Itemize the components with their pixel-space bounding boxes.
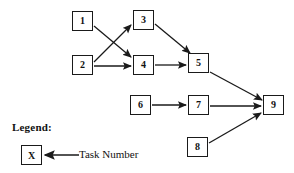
task-node-6[interactable]: 6: [130, 95, 151, 115]
edge-8-to-9: [209, 113, 261, 143]
legend-sample-box: X: [21, 145, 42, 165]
task-node-2[interactable]: 2: [72, 55, 93, 75]
task-node-9[interactable]: 9: [263, 95, 284, 115]
task-node-5[interactable]: 5: [188, 53, 209, 73]
task-node-7[interactable]: 7: [188, 95, 209, 115]
task-node-label: 8: [195, 142, 200, 152]
legend-sample-label: X: [28, 150, 35, 161]
legend-description: Task Number: [79, 148, 138, 160]
diagram-canvas: 1 2 3 4 5 6 7 8 9 Legend: X Task Number: [0, 0, 294, 173]
task-node-4[interactable]: 4: [133, 55, 154, 75]
task-node-label: 5: [196, 58, 201, 68]
task-node-label: 1: [80, 16, 85, 26]
task-node-1[interactable]: 1: [72, 11, 93, 31]
task-node-label: 2: [80, 60, 85, 70]
task-node-3[interactable]: 3: [133, 10, 154, 30]
task-node-label: 3: [141, 15, 146, 25]
task-node-label: 7: [196, 100, 201, 110]
edge-group: [94, 24, 262, 143]
task-node-label: 6: [138, 100, 143, 110]
task-node-label: 4: [141, 60, 146, 70]
edge-3-to-5: [155, 24, 190, 53]
task-node-label: 9: [271, 100, 276, 110]
legend-heading: Legend:: [12, 121, 52, 133]
edge-5-to-9: [210, 72, 262, 100]
task-node-8[interactable]: 8: [187, 137, 208, 157]
